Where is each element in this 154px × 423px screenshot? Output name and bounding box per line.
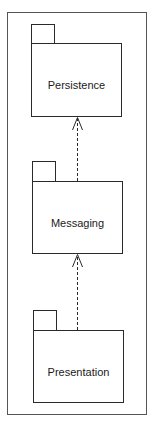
package-label: Messaging [51, 217, 104, 229]
package-diagram: Persistence Messaging Presentation [0, 0, 154, 423]
dependency-arrow-messaging-to-persistence [73, 118, 83, 182]
package-presentation[interactable]: Presentation [34, 311, 124, 403]
package-tab [32, 25, 55, 44]
package-tab [33, 162, 56, 182]
package-label: Persistence [48, 79, 105, 91]
open-arrowhead-icon [73, 255, 83, 268]
package-tab [34, 311, 57, 331]
dependency-arrow-presentation-to-messaging [73, 255, 83, 331]
package-persistence[interactable]: Persistence [32, 25, 122, 117]
package-label: Presentation [48, 366, 110, 378]
